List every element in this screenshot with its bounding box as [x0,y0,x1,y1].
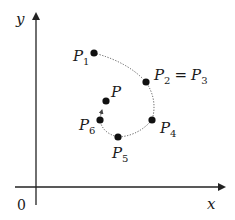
dotted-curve [94,53,154,137]
x-axis-label: x [207,195,216,213]
label-p5: P5 [111,144,128,164]
point-p6 [96,116,103,123]
label-p: P [110,83,122,101]
point-p2 [142,78,149,85]
point-p5 [114,133,121,140]
diagram-canvas: y x 0 P1 P2=P3 P4 P5 P6 P [0,0,235,220]
label-p2-eq-p3: P2=P3 [153,66,208,86]
label-p6: P6 [78,116,95,136]
point-p4 [148,116,155,123]
label-p1: P1 [72,47,89,67]
point-p [102,97,109,104]
origin-label: 0 [17,197,26,213]
label-p4: P4 [159,119,176,139]
point-p1 [90,49,97,56]
y-axis-label: y [15,10,25,28]
